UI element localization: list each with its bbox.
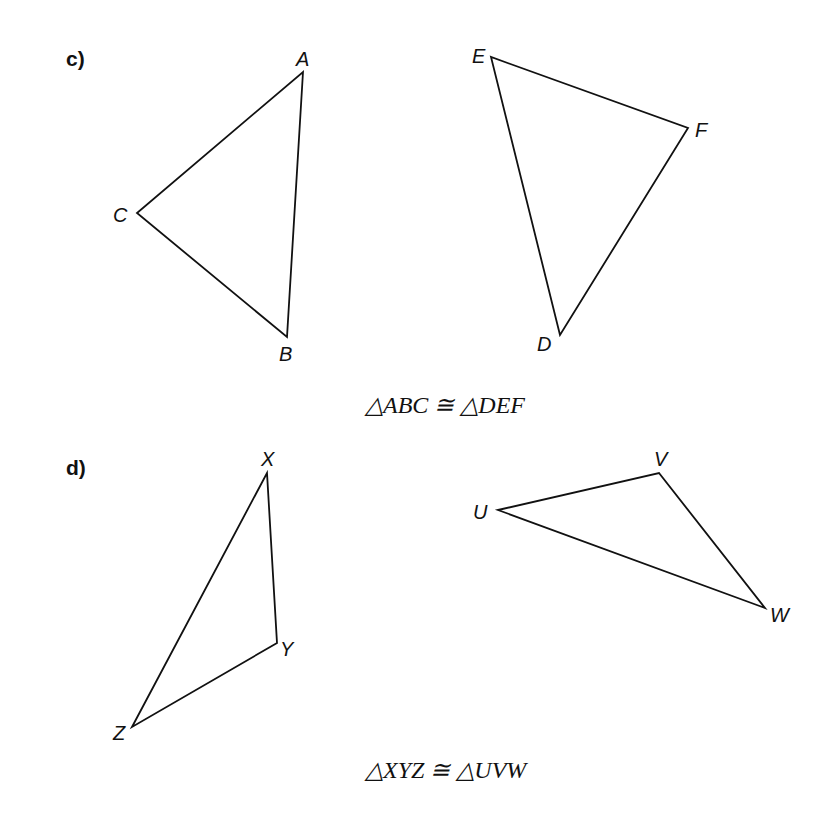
vertex-label-v: V bbox=[654, 448, 669, 470]
vertex-label-u: U bbox=[473, 501, 488, 523]
part-d: d) X Y Z U V W △XYZ ≅ △UVW bbox=[66, 448, 791, 783]
vertex-label-y: Y bbox=[280, 638, 295, 660]
vertex-label-b: B bbox=[279, 343, 292, 365]
part-d-label: d) bbox=[66, 456, 86, 479]
vertex-label-z: Z bbox=[112, 722, 126, 744]
triangle-xyz bbox=[132, 473, 277, 727]
vertex-label-f: F bbox=[695, 119, 709, 141]
vertex-label-w: W bbox=[770, 604, 791, 626]
vertex-label-e: E bbox=[472, 45, 486, 67]
congruence-statement-c: △ABC ≅ △DEF bbox=[364, 392, 525, 418]
triangle-uvw bbox=[498, 473, 765, 608]
triangle-def bbox=[491, 57, 688, 335]
vertex-label-a: A bbox=[295, 48, 309, 70]
part-c: c) A B C D E F △ABC ≅ △DEF bbox=[66, 45, 709, 418]
part-c-label: c) bbox=[66, 47, 85, 70]
vertex-label-d: D bbox=[537, 333, 551, 355]
vertex-label-c: C bbox=[113, 204, 128, 226]
triangle-abc bbox=[137, 72, 303, 337]
vertex-label-x: X bbox=[260, 448, 275, 470]
congruence-statement-d: △XYZ ≅ △UVW bbox=[364, 757, 528, 783]
congruent-triangles-diagram: c) A B C D E F △ABC ≅ △DEF d) X Y Z U V … bbox=[0, 0, 827, 818]
